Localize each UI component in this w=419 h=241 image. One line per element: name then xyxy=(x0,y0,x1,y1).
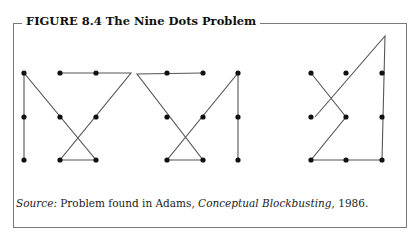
dot xyxy=(57,114,62,119)
solution-line xyxy=(24,73,131,160)
dot xyxy=(343,157,348,162)
dot xyxy=(379,114,384,119)
dot xyxy=(343,114,348,119)
solution-line xyxy=(311,36,385,160)
dot xyxy=(21,114,26,119)
dot xyxy=(21,157,26,162)
dot xyxy=(57,70,62,75)
dot xyxy=(57,157,62,162)
dot xyxy=(200,70,205,75)
dot xyxy=(235,157,240,162)
dot xyxy=(200,157,205,162)
dot xyxy=(308,70,313,75)
dot xyxy=(308,114,313,119)
dot xyxy=(235,70,240,75)
dot xyxy=(308,157,313,162)
source-year: , 1986. xyxy=(332,197,369,209)
puzzle-solution-3 xyxy=(308,36,385,163)
puzzle-solution-2 xyxy=(137,70,241,162)
dot xyxy=(235,114,240,119)
dot xyxy=(164,114,169,119)
dot xyxy=(93,157,98,162)
dot xyxy=(21,70,26,75)
source-caption: Source: Problem found in Adams, Conceptu… xyxy=(16,197,368,209)
dot xyxy=(200,114,205,119)
source-book-title: Conceptual Blockbusting xyxy=(198,197,331,209)
dot xyxy=(164,157,169,162)
dot xyxy=(343,70,348,75)
source-label: Source: xyxy=(16,197,57,209)
dot xyxy=(93,114,98,119)
solution-line xyxy=(137,73,238,160)
dot xyxy=(379,157,384,162)
dot xyxy=(164,70,169,75)
puzzle-solution-1 xyxy=(21,70,131,162)
dot xyxy=(379,70,384,75)
dot xyxy=(93,70,98,75)
source-text: Problem found in Adams, xyxy=(57,197,198,209)
